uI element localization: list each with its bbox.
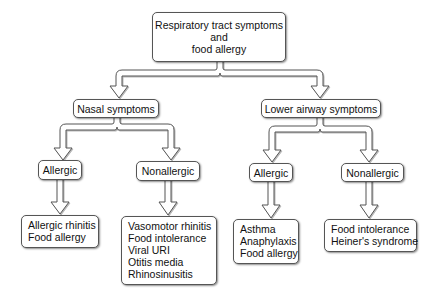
lower-allergic-list-box: Asthma Anaphylaxis Food allergy (233, 219, 299, 264)
lower-nonallergic-list-box: Food intolerance Heiner's syndrome (324, 219, 417, 252)
lower-allergic-label: Allergic (254, 167, 288, 179)
list-item: Food allergy (240, 247, 292, 259)
list-item: Food allergy (28, 231, 92, 243)
lower-airway-symptoms-box: Lower airway symptoms (261, 99, 381, 118)
list-item: Anaphylaxis (240, 235, 292, 247)
lower-allergic-box: Allergic (249, 163, 293, 182)
nasal-allergic-label: Allergic (43, 164, 77, 176)
arrow-nasal-allergic (51, 179, 69, 214)
list-item: Vasomotor rhinitis (128, 220, 210, 232)
nasal-nonallergic-box: Nonallergic (136, 161, 200, 181)
root-line-2: and (210, 31, 228, 43)
list-item: Heiner's syndrome (331, 235, 410, 247)
list-item: Food intolerance (128, 232, 210, 244)
list-item: Asthma (240, 223, 292, 235)
list-item: Rhinosinusitis (128, 268, 210, 280)
arrow-nasal-nonallergic (159, 180, 177, 215)
root-line-1: Respiratory tract symptoms (155, 19, 283, 31)
split-arrow-lower (263, 117, 378, 162)
list-item: Allergic rhinitis (28, 219, 92, 231)
split-arrow-root (110, 61, 329, 98)
nasal-nonallergic-list-box: Vasomotor rhinitis Food intolerance Vira… (121, 216, 217, 285)
root-box: Respiratory tract symptoms and food alle… (152, 12, 286, 62)
arrow-lower-nonallergic (360, 181, 378, 218)
nasal-symptoms-label: Nasal symptoms (77, 103, 155, 115)
lower-nonallergic-label: Nonallergic (346, 167, 399, 179)
list-item: Otitis media (128, 256, 210, 268)
root-line-3: food allergy (192, 43, 246, 55)
lower-airway-label: Lower airway symptoms (265, 103, 378, 115)
arrow-lower-allergic (262, 181, 280, 218)
nasal-allergic-list-box: Allergic rhinitis Food allergy (21, 215, 99, 248)
nasal-nonallergic-label: Nonallergic (142, 165, 195, 177)
nasal-symptoms-box: Nasal symptoms (73, 99, 159, 118)
list-item: Viral URI (128, 244, 210, 256)
nasal-allergic-box: Allergic (38, 160, 82, 180)
split-arrow-nasal (54, 117, 180, 160)
list-item: Food intolerance (331, 223, 410, 235)
lower-nonallergic-box: Nonallergic (341, 163, 404, 182)
